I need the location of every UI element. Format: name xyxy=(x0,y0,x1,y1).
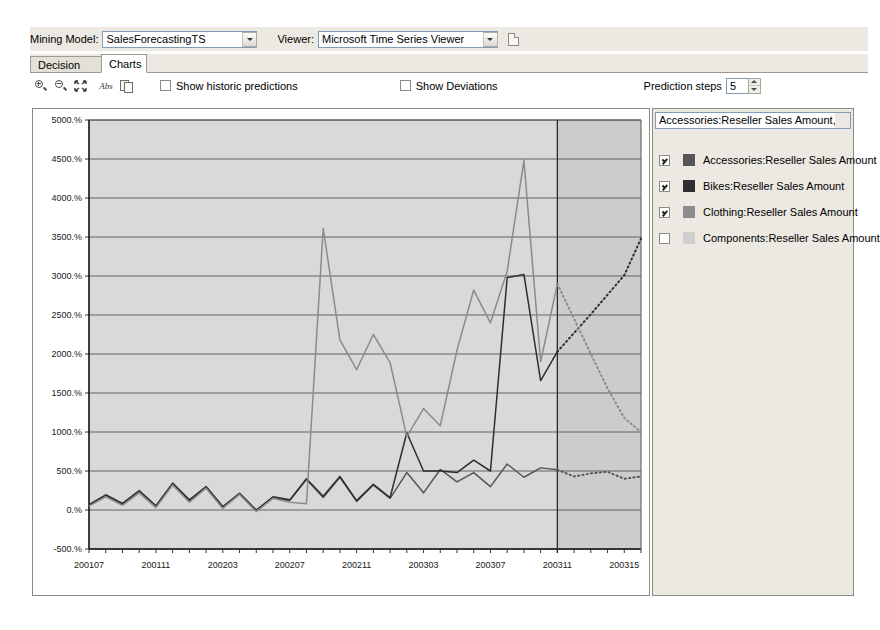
legend-items: Accessories:Reseller Sales AmountBikes:R… xyxy=(659,147,849,251)
legend-item[interactable]: Clothing:Reseller Sales Amount xyxy=(659,199,849,225)
chart-toolbar: Abs Show historic predictions Show Devia… xyxy=(30,73,868,98)
fit-arrows-glyph xyxy=(74,80,87,92)
y-axis-tick-label: 0.% xyxy=(66,505,82,515)
zoom-in-icon[interactable] xyxy=(30,76,50,96)
y-axis-tick-label: 500.% xyxy=(56,466,82,476)
legend-color-swatch xyxy=(683,154,695,166)
view-tabs: Decision Tree Charts xyxy=(30,54,868,73)
y-axis-tick-label: 3000.% xyxy=(51,271,82,281)
legend-item[interactable]: Components:Reseller Sales Amount xyxy=(659,225,849,251)
viewer-value: Microsoft Time Series Viewer xyxy=(319,32,464,47)
legend-checkbox[interactable] xyxy=(659,207,670,218)
legend-checkbox[interactable] xyxy=(659,155,670,166)
legend-color-swatch xyxy=(683,206,695,218)
series-selector-value: Accessories:Reseller Sales Amount,Bikes:… xyxy=(656,113,835,128)
mining-model-dropdown[interactable]: SalesForecastingTS xyxy=(102,31,257,48)
copy-icon[interactable] xyxy=(116,76,136,96)
mining-model-value: SalesForecastingTS xyxy=(103,32,205,47)
x-axis-tick-label: 200311 xyxy=(543,560,572,570)
checkbox-box[interactable] xyxy=(400,80,411,91)
refresh-document-icon[interactable] xyxy=(504,30,523,49)
show-historic-predictions-checkbox[interactable]: Show historic predictions xyxy=(160,80,298,92)
time-series-chart-panel[interactable]: 5000.%4500.%4000.%3500.%3000.%2500.%2000… xyxy=(32,108,650,596)
forecast-region xyxy=(557,120,641,549)
series-selector-dropdown[interactable]: Accessories:Reseller Sales Amount,Bikes:… xyxy=(655,112,851,129)
legend-label: Components:Reseller Sales Amount xyxy=(703,232,880,244)
y-axis-tick-label: 1000.% xyxy=(51,427,82,437)
viewer-label: Viewer: xyxy=(277,33,313,45)
legend-panel: Accessories:Reseller Sales Amount,Bikes:… xyxy=(652,108,854,596)
x-axis-tick-label: 200203 xyxy=(208,560,238,570)
legend-color-swatch xyxy=(683,180,695,192)
chevron-down-icon[interactable] xyxy=(242,32,257,47)
stepper-down-icon[interactable] xyxy=(749,86,760,93)
prediction-steps-stepper[interactable] xyxy=(748,78,761,94)
tab-charts[interactable]: Charts xyxy=(101,54,147,73)
y-axis-tick-label: 4000.% xyxy=(51,193,82,203)
prediction-steps-input[interactable]: 5 xyxy=(726,78,748,94)
mining-model-label: Mining Model: xyxy=(30,33,98,45)
x-axis-tick-label: 200211 xyxy=(342,560,371,570)
legend-item[interactable]: Bikes:Reseller Sales Amount xyxy=(659,173,849,199)
show-deviations-checkbox[interactable]: Show Deviations xyxy=(400,80,498,92)
viewer-dropdown[interactable]: Microsoft Time Series Viewer xyxy=(318,31,498,48)
x-axis-tick-label: 200303 xyxy=(409,560,439,570)
x-axis-tick-label: 200315 xyxy=(609,560,639,570)
zoom-out-icon[interactable] xyxy=(50,76,70,96)
legend-item[interactable]: Accessories:Reseller Sales Amount xyxy=(659,147,849,173)
show-deviations-label: Show Deviations xyxy=(416,80,498,92)
absolute-values-button[interactable]: Abs xyxy=(96,76,116,96)
legend-label: Accessories:Reseller Sales Amount xyxy=(703,154,877,166)
stepper-up-icon[interactable] xyxy=(749,79,760,87)
legend-checkbox[interactable] xyxy=(659,233,670,244)
legend-label: Clothing:Reseller Sales Amount xyxy=(703,206,858,218)
y-axis-tick-label: 4500.% xyxy=(51,154,82,164)
x-axis-tick-label: 200207 xyxy=(275,560,305,570)
y-axis-tick-label: 3500.% xyxy=(51,232,82,242)
x-axis-tick-label: 200107 xyxy=(74,560,104,570)
tab-decision-tree[interactable]: Decision Tree xyxy=(30,56,103,73)
chevron-down-icon[interactable] xyxy=(483,32,498,47)
y-axis-tick-label: 2000.% xyxy=(51,349,82,359)
fit-to-window-icon[interactable] xyxy=(70,76,90,96)
chevron-down-icon[interactable] xyxy=(835,113,850,128)
y-axis-tick-label: 1500.% xyxy=(51,388,82,398)
x-axis-tick-label: 200307 xyxy=(475,560,505,570)
y-axis-tick-label: 5000.% xyxy=(51,115,82,125)
abs-label: Abs xyxy=(99,81,113,91)
y-axis-tick-label: -500.% xyxy=(53,544,82,554)
prediction-steps-control: Prediction steps 5 xyxy=(644,78,761,94)
legend-checkbox[interactable] xyxy=(659,181,670,192)
checkbox-box[interactable] xyxy=(160,80,171,91)
legend-color-swatch xyxy=(683,232,695,244)
x-axis-tick-label: 200111 xyxy=(142,560,171,570)
time-series-chart[interactable]: 5000.%4500.%4000.%3500.%3000.%2500.%2000… xyxy=(33,109,649,595)
show-historic-predictions-label: Show historic predictions xyxy=(176,80,298,92)
legend-label: Bikes:Reseller Sales Amount xyxy=(703,180,844,192)
y-axis-tick-label: 2500.% xyxy=(51,310,82,320)
model-selection-bar: Mining Model: SalesForecastingTS Viewer:… xyxy=(30,27,868,51)
prediction-steps-label: Prediction steps xyxy=(644,80,722,92)
